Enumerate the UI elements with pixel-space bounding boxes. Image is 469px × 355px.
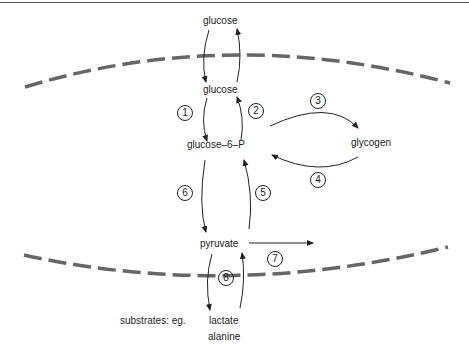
- step-3-badge: 3: [310, 93, 326, 109]
- membrane-bottom: [24, 247, 448, 276]
- step-5-badge: 5: [255, 185, 271, 201]
- step-8-badge: 8: [218, 270, 234, 286]
- step-1-badge: 1: [177, 105, 193, 121]
- membrane-top: [25, 55, 450, 87]
- step-7-badge: 7: [267, 251, 283, 267]
- glycogen-label: glycogen: [351, 137, 391, 148]
- step-4-badge: 4: [310, 172, 326, 188]
- pathway-diagram: [0, 0, 469, 355]
- lactate-label: lactate: [209, 315, 238, 326]
- glucose-inside-label: glucose: [203, 84, 237, 95]
- alanine-label: alanine: [208, 331, 240, 342]
- step-6-badge: 6: [177, 185, 193, 201]
- step-2-badge: 2: [248, 103, 264, 119]
- substrates-label: substrates: eg.: [120, 315, 186, 326]
- glucose-outside-label: glucose: [203, 15, 237, 26]
- pyruvate-label: pyruvate: [200, 238, 238, 249]
- glucose-6-p-label: glucose–6–P: [187, 139, 245, 150]
